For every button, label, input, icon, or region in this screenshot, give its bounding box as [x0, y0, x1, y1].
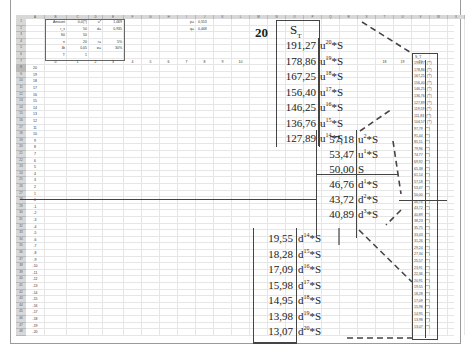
tree-dashed-lines: [0, 0, 470, 355]
